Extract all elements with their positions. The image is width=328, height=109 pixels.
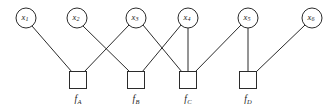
- factor-nodes-group: fAfBfCfD: [70, 72, 257, 106]
- edge-x1-fA: [32, 26, 72, 72]
- factor-graph-canvas: fAfBfCfD x1x2x3x4x5x6: [0, 0, 328, 109]
- edge-x5-fC: [195, 25, 241, 72]
- variable-nodes-group: x1x2x3x4x5x6: [16, 8, 322, 28]
- edge-x4-fB: [142, 25, 181, 72]
- factor-label-fB: fB: [133, 94, 140, 105]
- factor-label-fA: fA: [75, 94, 82, 105]
- edge-x6-fD: [256, 25, 305, 72]
- factor-node-fA: [70, 72, 87, 89]
- factor-label-fD: fD: [244, 94, 252, 105]
- factor-label-fC: fC: [184, 94, 192, 105]
- edges-group: [32, 25, 305, 72]
- edge-x3-fC: [143, 25, 182, 72]
- factor-node-fB: [128, 72, 145, 89]
- factor-node-fC: [180, 72, 197, 89]
- factor-node-fD: [240, 72, 257, 89]
- factor-graph-figure: fAfBfCfD x1x2x3x4x5x6: [0, 0, 328, 109]
